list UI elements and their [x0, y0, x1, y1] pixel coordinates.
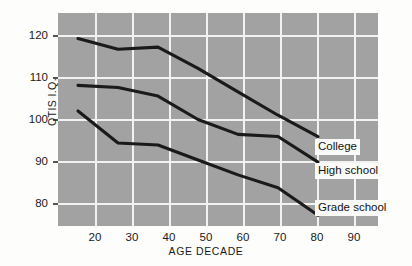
x-tick-label: 40 [149, 231, 189, 243]
x-tick-label: 20 [75, 231, 115, 243]
x-tick-label: 60 [223, 231, 263, 243]
y-tick-label: 90 [12, 156, 48, 168]
y-tick-mark [53, 35, 58, 37]
series-label-grade-school: Grade school [315, 200, 389, 216]
x-tick-label: 70 [260, 231, 300, 243]
series-line-high-school [78, 85, 318, 162]
series-line-grade-school [78, 111, 318, 215]
series-label-high-school: High school [315, 163, 381, 179]
y-tick-label: 100 [12, 114, 48, 126]
series-label-college: College [315, 139, 360, 155]
chart-figure: 120 110 100 90 80 20 30 40 50 60 70 80 9… [0, 0, 412, 266]
series-lines [58, 13, 378, 226]
x-tick-label: 80 [297, 231, 337, 243]
y-axis-label: OTIS I.Q. [46, 42, 58, 162]
x-tick-label: 90 [334, 231, 374, 243]
plot-area [58, 13, 378, 226]
y-tick-label: 110 [12, 72, 48, 84]
x-axis-label: AGE DECADE [0, 245, 412, 257]
x-tick-label: 30 [112, 231, 152, 243]
y-tick-label: 120 [12, 30, 48, 42]
y-tick-label: 80 [12, 198, 48, 210]
x-tick-label: 50 [186, 231, 226, 243]
y-tick-mark [53, 203, 58, 205]
